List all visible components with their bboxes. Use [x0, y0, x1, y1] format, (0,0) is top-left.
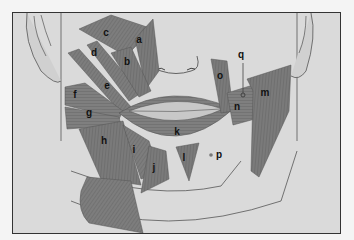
label-j: j [153, 163, 156, 173]
label-a-main: a [136, 35, 142, 45]
label-h: h [101, 136, 107, 146]
muscle-n [227, 85, 255, 125]
label-d: d [91, 48, 97, 58]
label-f: f [73, 90, 76, 100]
nose [154, 56, 198, 74]
label-n: n [234, 102, 240, 112]
label-l: l [183, 153, 186, 163]
muscle-l [176, 143, 199, 181]
label-m: m [261, 88, 270, 98]
label-i: i [133, 145, 136, 155]
label-o: o [217, 71, 223, 81]
point-p [209, 153, 213, 157]
muscle-m [247, 65, 291, 177]
label-p: p [216, 150, 222, 160]
left-ear [26, 13, 61, 82]
label-q: q [238, 50, 244, 60]
face-muscle-illustration [13, 13, 340, 233]
label-c-main: c [103, 28, 109, 38]
label-e: e [104, 81, 110, 91]
label-k: k [174, 127, 180, 137]
platysma-lower [80, 177, 143, 233]
label-g: g [86, 108, 92, 118]
diagram-frame [12, 12, 341, 234]
label-b: b [124, 57, 130, 67]
